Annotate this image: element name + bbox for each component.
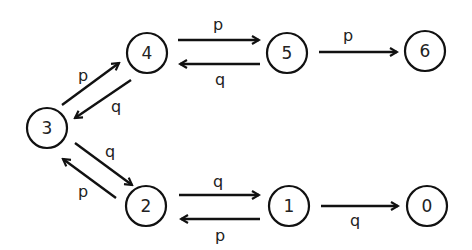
edge-label-1-to-2: p (215, 226, 225, 245)
node-2: 2 (126, 186, 166, 226)
node-label-5: 5 (282, 43, 293, 63)
edge-label-4-to-3: q (111, 97, 121, 116)
edge-label-1-to-0: q (350, 211, 360, 230)
node-6: 6 (405, 31, 445, 71)
node-4: 4 (127, 33, 167, 73)
node-5: 5 (267, 33, 307, 73)
node-label-6: 6 (420, 41, 431, 61)
edge-label-3-to-2: q (105, 142, 115, 161)
node-1: 1 (269, 186, 309, 226)
edge-label-3-to-4: p (78, 66, 88, 85)
node-label-2: 2 (141, 196, 152, 216)
edge-label-4-to-5: p (213, 15, 223, 34)
node-0: 0 (407, 186, 447, 226)
node-label-4: 4 (142, 43, 153, 63)
state-diagram: p q p p q q p q p q 0 1 2 (0, 0, 472, 250)
edge-label-2-to-3: p (78, 182, 88, 201)
node-label-3: 3 (42, 118, 53, 138)
edge-3-to-2 (75, 143, 132, 185)
edge-label-5-to-4: q (215, 70, 225, 89)
node-label-1: 1 (284, 196, 295, 216)
edge-label-2-to-1: q (213, 172, 223, 191)
edge-4-to-3 (75, 80, 131, 118)
node-3: 3 (27, 108, 67, 148)
node-label-0: 0 (422, 196, 433, 216)
edge-2-to-3 (63, 159, 116, 198)
edge-label-5-to-6: p (343, 26, 353, 45)
